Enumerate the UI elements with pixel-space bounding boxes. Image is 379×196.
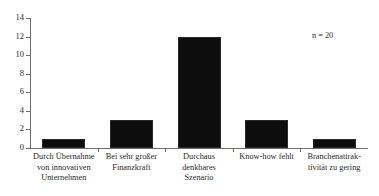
x-axis-labels: Durch Übernahmevon innovativenUnternehme…: [30, 152, 368, 196]
bar: [178, 37, 221, 148]
y-tick-label: 14: [16, 12, 25, 23]
bar: [245, 120, 288, 148]
y-tick-label: 4: [20, 105, 24, 116]
y-tick-4: 4: [0, 111, 30, 112]
x-axis-label: Know-how fehlt: [233, 152, 301, 163]
y-tick-12: 12: [0, 37, 30, 38]
x-axis-label-line: Bei sehr großer: [98, 152, 166, 163]
sample-size-annotation: n = 20: [312, 30, 333, 41]
y-tick-label: 0: [20, 142, 24, 153]
y-tick-label: 8: [20, 68, 24, 79]
x-axis-label-line: denkbares: [165, 163, 233, 174]
x-axis-label-line: tivität zu gering: [300, 163, 368, 174]
x-axis-label: Bei sehr großerFinanzkraft: [98, 152, 166, 173]
y-tick-14: 14: [0, 18, 30, 19]
y-tick-label: 2: [20, 123, 24, 134]
x-axis-label-line: Szenario: [165, 173, 233, 184]
y-tick-6: 6: [0, 92, 30, 93]
y-tick-10: 10: [0, 55, 30, 56]
x-axis-line: [30, 148, 368, 149]
bar-chart: 02468101214 Durch Übernahmevon innovativ…: [0, 0, 379, 196]
x-axis-label-line: Finanzkraft: [98, 163, 166, 174]
x-axis-label: Branchenattrak-tivität zu gering: [300, 152, 368, 173]
x-axis-label-line: von innovativen: [30, 163, 98, 174]
y-tick-2: 2: [0, 129, 30, 130]
bar: [313, 139, 356, 148]
x-axis-label: Durch Übernahmevon innovativenUnternehme…: [30, 152, 98, 184]
y-tick-label: 10: [16, 49, 25, 60]
x-axis-label-line: Durch Übernahme: [30, 152, 98, 163]
y-tick-8: 8: [0, 74, 30, 75]
x-axis-label: DurchausdenkbaresSzenario: [165, 152, 233, 184]
tick-mark-icon: [26, 148, 30, 149]
bar: [110, 120, 153, 148]
x-axis-label-line: Know-how fehlt: [233, 152, 301, 163]
bar: [42, 139, 85, 148]
y-tick-label: 12: [16, 31, 25, 42]
x-axis-label-line: Durchaus: [165, 152, 233, 163]
x-axis-label-line: Unternehmen: [30, 173, 98, 184]
x-axis-label-line: Branchenattrak-: [300, 152, 368, 163]
y-tick-label: 6: [20, 86, 24, 97]
y-tick-0: 0: [0, 148, 30, 149]
